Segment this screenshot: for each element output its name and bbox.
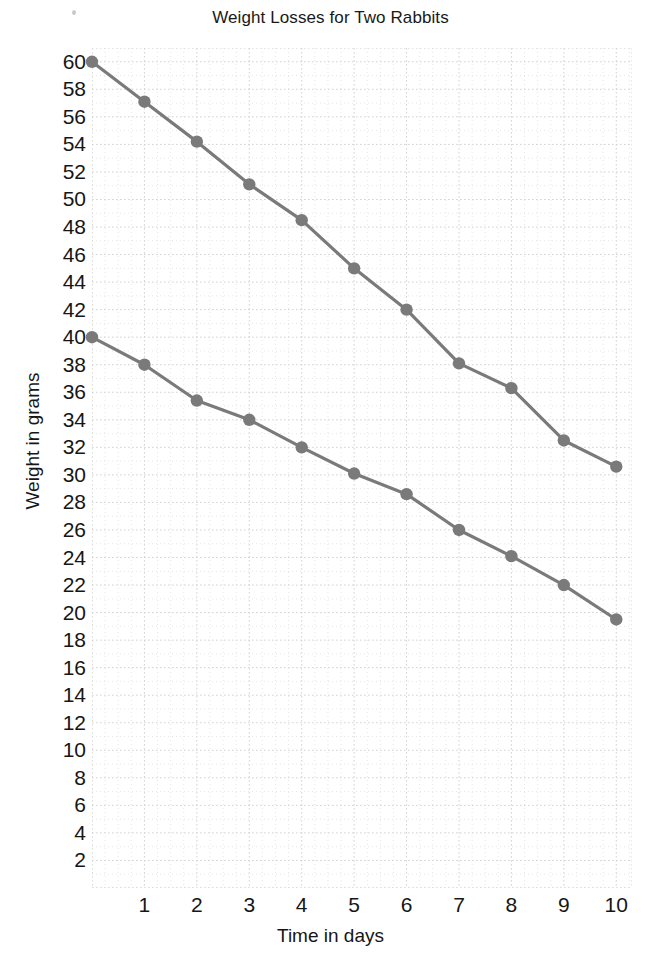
scan-artifact-speck	[72, 10, 76, 15]
y-tick-label: 26	[0, 518, 86, 542]
y-tick-label: 54	[0, 132, 86, 156]
y-tick-label: 2	[0, 848, 86, 872]
data-point-marker	[243, 414, 255, 426]
data-point-marker	[610, 613, 622, 625]
y-tick-label: 30	[0, 463, 86, 487]
y-tick-label: 22	[0, 573, 86, 597]
data-point-marker	[558, 434, 570, 446]
y-tick-label: 44	[0, 270, 86, 294]
y-tick-label: 32	[0, 435, 86, 459]
data-point-marker	[243, 178, 255, 190]
data-point-marker	[348, 262, 360, 274]
y-tick-label: 40	[0, 325, 86, 349]
y-tick-label: 58	[0, 77, 86, 101]
y-tick-label: 34	[0, 408, 86, 432]
y-tick-label: 56	[0, 105, 86, 129]
y-tick-label: 10	[0, 738, 86, 762]
y-tick-label: 52	[0, 160, 86, 184]
data-point-marker	[86, 331, 98, 343]
data-point-marker	[138, 96, 150, 108]
chart-title: Weight Losses for Two Rabbits	[0, 8, 661, 28]
y-tick-label: 50	[0, 187, 86, 211]
data-series-layer	[92, 48, 632, 888]
y-tick-label: 18	[0, 628, 86, 652]
y-tick-label: 46	[0, 243, 86, 267]
data-point-marker	[86, 56, 98, 68]
data-point-marker	[296, 441, 308, 453]
y-tick-label: 4	[0, 821, 86, 845]
y-tick-label: 24	[0, 546, 86, 570]
x-tick-label: 8	[506, 893, 518, 917]
y-tick-label: 20	[0, 601, 86, 625]
x-tick-label: 5	[348, 893, 360, 917]
y-tick-label: 12	[0, 711, 86, 735]
data-point-marker	[505, 550, 517, 562]
chart-figure: Weight Losses for Two Rabbits Weight in …	[0, 0, 661, 961]
x-tick-label: 2	[191, 893, 203, 917]
data-point-marker	[400, 488, 412, 500]
x-tick-label: 1	[139, 893, 151, 917]
plot-area	[92, 48, 632, 888]
data-point-marker	[610, 460, 622, 472]
x-axis-tick-labels: 12345678910	[92, 893, 632, 927]
data-point-marker	[400, 303, 412, 315]
data-point-marker	[558, 579, 570, 591]
y-tick-label: 36	[0, 380, 86, 404]
y-axis-tick-labels: 2468101214161820222426283032343638404244…	[0, 48, 86, 888]
x-axis-label: Time in days	[0, 925, 661, 947]
y-tick-label: 60	[0, 50, 86, 74]
data-point-marker	[348, 467, 360, 479]
data-point-marker	[453, 524, 465, 536]
data-point-marker	[138, 359, 150, 371]
data-point-marker	[296, 214, 308, 226]
x-tick-label: 9	[558, 893, 570, 917]
data-point-marker	[505, 382, 517, 394]
y-tick-label: 16	[0, 656, 86, 680]
x-tick-label: 7	[453, 893, 465, 917]
x-tick-label: 4	[296, 893, 308, 917]
x-tick-label: 10	[605, 893, 628, 917]
y-tick-label: 42	[0, 298, 86, 322]
data-point-marker	[453, 357, 465, 369]
y-tick-label: 28	[0, 490, 86, 514]
data-point-marker	[191, 394, 203, 406]
y-tick-label: 48	[0, 215, 86, 239]
data-point-marker	[191, 135, 203, 147]
y-tick-label: 6	[0, 793, 86, 817]
x-tick-label: 3	[243, 893, 255, 917]
y-tick-label: 8	[0, 766, 86, 790]
y-tick-label: 14	[0, 683, 86, 707]
x-tick-label: 6	[401, 893, 413, 917]
y-tick-label: 38	[0, 353, 86, 377]
